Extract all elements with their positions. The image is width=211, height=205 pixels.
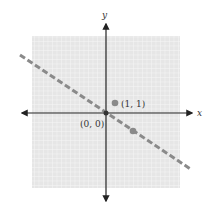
y-axis-label: y (101, 10, 108, 20)
point-1-1 (112, 100, 119, 107)
x-axis-label: x (197, 108, 202, 118)
label-origin: (0, 0) (80, 119, 104, 129)
label-point-1-1: (1, 1) (121, 99, 145, 109)
point-3-neg2 (130, 128, 137, 135)
coordinate-plane: x y (1, 1) (0, 0) (0, 0, 211, 205)
point-origin (104, 111, 109, 116)
